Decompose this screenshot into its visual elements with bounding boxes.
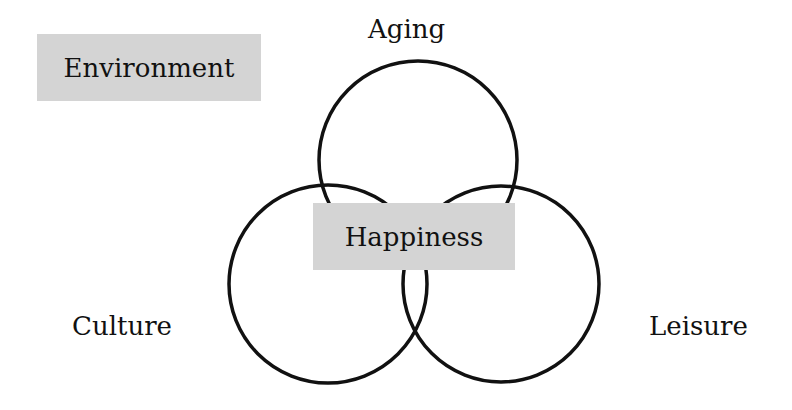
happiness-label: Happiness xyxy=(345,222,484,252)
leisure-label: Leisure xyxy=(649,313,748,339)
aging-label: Aging xyxy=(368,16,445,42)
environment-label: Environment xyxy=(64,53,235,83)
culture-label: Culture xyxy=(72,313,172,339)
environment-box: Environment xyxy=(37,34,261,101)
happiness-box: Happiness xyxy=(313,203,515,270)
